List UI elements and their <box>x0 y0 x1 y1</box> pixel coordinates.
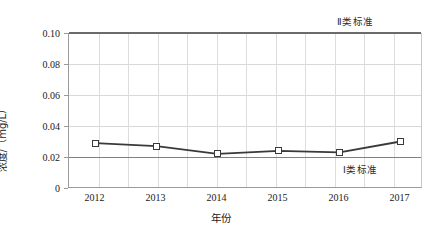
x-tick-label-2016: 2016 <box>329 192 349 203</box>
y-axis-title: 浓度/（mg/L） <box>0 0 9 78</box>
chart-figure: 浓度/（mg/L） 0.10 0.08 0.06 0.04 0.02 0 Ⅱ类标… <box>0 0 442 234</box>
x-tick-label-2013: 2013 <box>146 192 166 203</box>
y-tick-label-0.02: 0.02 <box>20 152 60 163</box>
y-tick-label-0.08: 0.08 <box>20 59 60 70</box>
data-point-2012 <box>92 140 99 147</box>
y-tick-label-0.06: 0.06 <box>20 90 60 101</box>
y-tick-label-0: 0 <box>20 183 60 194</box>
data-point-2014 <box>214 150 221 157</box>
class-2-standard-label: Ⅱ类标准 <box>337 14 374 28</box>
x-tick-label-2017: 2017 <box>390 192 410 203</box>
y-tick-label-0.04: 0.04 <box>20 121 60 132</box>
x-tick-label-2015: 2015 <box>268 192 288 203</box>
y-axis-title-text: 浓度/（mg/L） <box>0 78 9 198</box>
x-axis-title: 年份 <box>0 210 442 225</box>
data-point-2013 <box>153 143 160 150</box>
data-point-2016 <box>336 149 343 156</box>
data-point-2015 <box>275 147 282 154</box>
x-tick-label-2014: 2014 <box>207 192 227 203</box>
class-2-standard-line <box>69 32 421 34</box>
class-1-standard-label: Ⅰ类标准 <box>343 162 378 176</box>
y-tick-label-0.10: 0.10 <box>20 28 60 39</box>
y-tick-mark-0 <box>64 188 68 189</box>
data-point-2017 <box>397 138 404 145</box>
x-tick-label-2012: 2012 <box>85 192 105 203</box>
